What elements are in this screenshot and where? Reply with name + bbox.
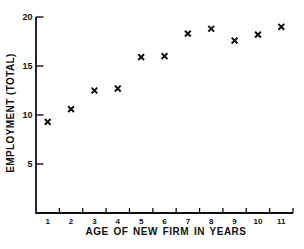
x-tick-label: 4: [116, 217, 121, 226]
x-tick-label: 3: [92, 217, 97, 226]
data-point-x-marker: [208, 26, 214, 32]
x-tick-label: 9: [232, 217, 237, 226]
employment-scatter-chart: 51015201234567891011: [0, 0, 304, 249]
y-tick-label: 20: [22, 12, 32, 22]
data-point-x-marker: [185, 31, 191, 37]
y-axis-title: EMPLOYMENT (TOTAL): [5, 53, 16, 173]
x-tick-label: 2: [69, 217, 74, 226]
data-point-x-marker: [255, 32, 261, 38]
data-point-x-marker: [92, 88, 98, 94]
data-point-x-marker: [138, 54, 144, 60]
x-tick-label: 7: [186, 217, 191, 226]
x-axis-title: AGE OF NEW FIRM IN YEARS: [86, 226, 247, 237]
data-point-x-marker: [115, 86, 121, 92]
data-point-x-marker: [232, 38, 238, 44]
x-tick-label: 11: [277, 217, 286, 226]
axis-spines: [36, 17, 293, 213]
data-point-x-marker: [45, 119, 51, 125]
x-tick-label: 6: [162, 217, 167, 226]
x-tick-label: 8: [209, 217, 214, 226]
data-point-x-marker: [162, 53, 168, 59]
x-tick-label: 10: [254, 217, 263, 226]
employment-scatter-figure: 51015201234567891011 EMPLOYMENT (TOTAL) …: [0, 0, 304, 249]
x-tick-label: 1: [45, 217, 50, 226]
y-tick-label: 10: [22, 110, 32, 120]
y-tick-label: 15: [22, 61, 32, 71]
x-tick-label: 5: [139, 217, 144, 226]
data-point-x-marker: [68, 106, 74, 112]
data-point-x-marker: [278, 24, 284, 30]
y-tick-label: 5: [27, 159, 32, 169]
